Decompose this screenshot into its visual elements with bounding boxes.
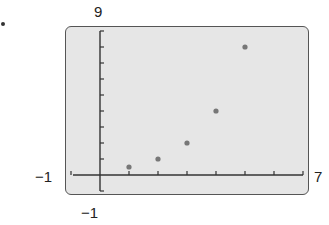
scatter-plot	[0, 0, 329, 225]
data-points	[126, 44, 247, 169]
data-point	[213, 108, 218, 113]
data-point	[126, 164, 131, 169]
data-point	[242, 44, 247, 49]
axes	[71, 31, 303, 191]
data-point	[184, 140, 189, 145]
data-point	[155, 156, 160, 161]
